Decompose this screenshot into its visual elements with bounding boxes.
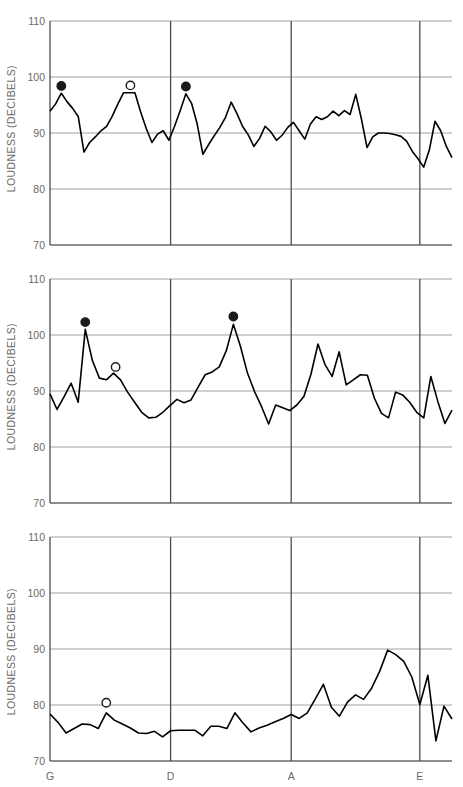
plot-area-panel-2: 708090100110 [0, 258, 463, 516]
y-tick-label-90: 90 [33, 127, 45, 139]
y-tick-label-100: 100 [27, 71, 45, 83]
marker-filled-2 [229, 312, 237, 320]
y-tick-label-70: 70 [33, 755, 45, 767]
loudness-figure: LOUDNESS (DECIBELS) 708090100110 LOUDNES… [0, 0, 463, 787]
x-tick-label-G: G [46, 770, 54, 782]
chart-panel-2: LOUDNESS (DECIBELS) 708090100110 [0, 258, 463, 516]
y-tick-label-70: 70 [33, 239, 45, 251]
x-tick-label-A: A [288, 770, 295, 782]
y-tick-label-90: 90 [33, 643, 45, 655]
x-tick-label-E: E [416, 770, 423, 782]
chart-panel-1: LOUDNESS (DECIBELS) 708090100110 [0, 0, 463, 258]
plot-area-panel-3: 708090100110GDAE [0, 516, 463, 787]
marker-filled-0 [57, 82, 65, 90]
plot-area-panel-1: 708090100110 [0, 0, 463, 258]
y-tick-label-80: 80 [33, 183, 45, 195]
y-axis-label-panel-2: LOUDNESS (DECIBELS) [2, 258, 20, 516]
y-tick-label-70: 70 [33, 497, 45, 509]
y-tick-label-80: 80 [33, 699, 45, 711]
marker-open-1 [126, 81, 134, 89]
y-axis-label-panel-1: LOUDNESS (DECIBELS) [2, 0, 20, 258]
y-tick-label-80: 80 [33, 441, 45, 453]
marker-open-1 [111, 363, 119, 371]
y-tick-label-110: 110 [28, 531, 45, 543]
x-tick-label-D: D [167, 770, 175, 782]
data-line-panel-1 [50, 93, 452, 167]
data-line-panel-3 [50, 650, 452, 741]
y-axis-label-panel-3: LOUDNESS (DECIBELS) [2, 516, 20, 787]
marker-filled-2 [182, 82, 190, 90]
y-tick-label-110: 110 [28, 15, 45, 27]
y-tick-label-100: 100 [27, 329, 45, 341]
chart-panel-3: LOUDNESS (DECIBELS) 708090100110GDAE [0, 516, 463, 787]
y-tick-label-110: 110 [28, 273, 45, 285]
marker-open-0 [102, 699, 110, 707]
data-line-panel-2 [50, 324, 452, 424]
y-tick-label-90: 90 [33, 385, 45, 397]
marker-filled-0 [81, 318, 89, 326]
y-tick-label-100: 100 [27, 587, 45, 599]
